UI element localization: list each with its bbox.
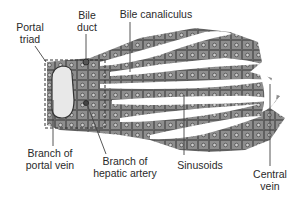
label-bile-canaliculus: Bile canaliculus [108,8,204,20]
portal-vein-lumen [52,66,74,118]
hepatocyte-plates [47,28,285,152]
label-central-vein: Central vein [250,168,290,192]
label-sinusoids: Sinusoids [170,159,230,171]
label-branch-hepatic-artery: Branch of hepatic artery [90,155,160,179]
leader-portal-triad [35,46,46,62]
label-bile-duct: Bile duct [72,9,102,33]
label-portal-triad: Portal triad [8,21,52,45]
label-branch-portal-vein: Branch of portal vein [22,147,78,171]
